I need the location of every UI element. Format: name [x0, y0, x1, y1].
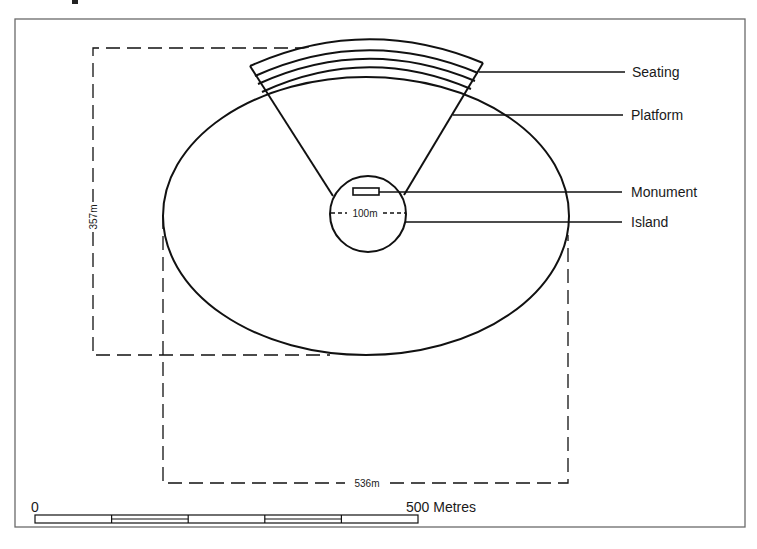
- width-dimension-label: 536m: [354, 478, 379, 489]
- width-dimension-lines: [163, 215, 568, 483]
- scale-end-label: 500 Metres: [406, 499, 476, 515]
- monument-rect: [353, 188, 379, 195]
- scale-start-label: 0: [31, 499, 39, 515]
- monument-label: Monument: [631, 184, 697, 200]
- leader-lines: [379, 72, 625, 222]
- island-label: Island: [631, 214, 668, 230]
- platform-label: Platform: [631, 107, 683, 123]
- scale-bar: [35, 515, 418, 523]
- figure-frame: [15, 19, 745, 527]
- island-diameter-label: 100m: [352, 208, 377, 219]
- seating-label: Seating: [632, 64, 679, 80]
- site-plan-diagram: 100m 357m 536m Seating Platform Monument…: [0, 0, 757, 549]
- height-dimension-lines: [93, 48, 330, 355]
- height-dimension-label: 357m: [88, 204, 99, 229]
